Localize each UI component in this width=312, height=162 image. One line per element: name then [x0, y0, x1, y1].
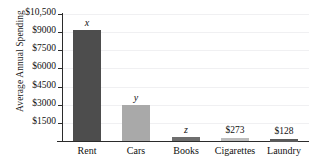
y-tick-mark [58, 50, 62, 51]
y-tick-label: $1500 [32, 116, 56, 126]
y-tick-mark [58, 32, 62, 33]
bar-cigarettes [221, 138, 249, 141]
y-tick-label: $3000 [32, 98, 56, 108]
y-tick-label: $7500 [32, 43, 56, 53]
y-tick-mark [58, 105, 62, 106]
bar-laundry [270, 139, 298, 142]
y-tick-mark [58, 123, 62, 124]
bar-cars [122, 105, 150, 141]
bar-value-label-laundry: $128 [254, 126, 312, 136]
y-axis-line [62, 13, 63, 142]
y-tick-mark [58, 87, 62, 88]
y-axis-title: Average Annual Spending [15, 0, 25, 131]
y-tick-label: $6000 [32, 61, 56, 71]
y-tick-mark [58, 14, 62, 15]
y-tick-label: $4500 [32, 80, 56, 90]
y-tick-label: $9000 [32, 25, 56, 35]
x-axis-label-laundry: Laundry [250, 145, 312, 156]
bar-value-label-cars: y [106, 92, 166, 103]
bar-value-label-rent: x [57, 17, 117, 28]
bar-books [172, 137, 200, 141]
y-tick-mark [58, 68, 62, 69]
y-tick-label: $10,500 [25, 7, 56, 17]
bar-rent [73, 30, 101, 141]
bar-chart: Average Annual Spending $1500$3000$4500$… [0, 0, 312, 162]
gridline [62, 14, 309, 15]
